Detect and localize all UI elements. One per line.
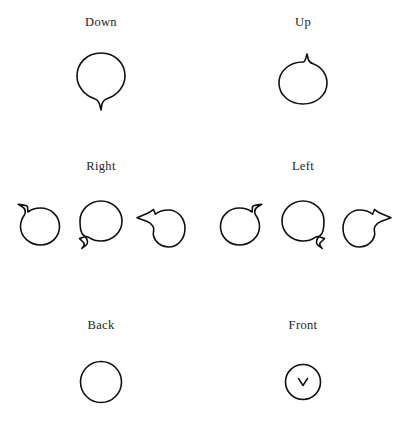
- shape-cell: [334, 188, 396, 258]
- balloon-tail-lower-left-icon: [73, 193, 129, 253]
- shape-cell: [132, 188, 194, 258]
- balloon-tail-upper-right-icon: [213, 193, 269, 253]
- group-label-right: Right: [0, 158, 202, 174]
- shape-cell: [8, 188, 70, 258]
- shape-list-front: [202, 347, 404, 417]
- shape-cell: [272, 188, 334, 258]
- figure-row-back-front: Back Front: [0, 317, 404, 437]
- figure-row-right-left: Right: [0, 158, 404, 288]
- shape-cell: [70, 347, 132, 417]
- shape-group-right: Right: [0, 158, 202, 258]
- balloon-tail-down-icon: [70, 49, 132, 115]
- shape-list-right: [0, 188, 202, 258]
- shape-group-left: Left: [202, 158, 404, 258]
- shape-cell: [70, 188, 132, 258]
- group-label-back: Back: [0, 317, 202, 333]
- shape-group-down: Down: [0, 14, 202, 120]
- shape-cell: [266, 44, 340, 120]
- shape-list-down: [0, 44, 202, 120]
- shape-group-front: Front: [202, 317, 404, 417]
- shape-cell: [64, 44, 138, 120]
- balloon-tail-lower-right-icon: [275, 193, 331, 253]
- shape-group-up: Up: [202, 14, 404, 120]
- balloon-tail-upper-left-icon: [11, 193, 67, 253]
- balloon-tail-left-icon: [133, 193, 193, 253]
- circle-with-chevron-icon: [278, 357, 328, 407]
- plain-circle-icon: [76, 357, 126, 407]
- shape-list-up: [202, 44, 404, 120]
- group-label-down: Down: [0, 14, 202, 30]
- figure-row-down-up: Down Up: [0, 14, 404, 144]
- shape-list-back: [0, 347, 202, 417]
- group-label-up: Up: [202, 14, 404, 30]
- shape-list-left: [202, 188, 404, 258]
- group-label-front: Front: [202, 317, 404, 333]
- shape-cell: [272, 347, 334, 417]
- chevron-down-icon: [299, 379, 308, 386]
- direction-shape-figure: Down Up Right: [0, 0, 404, 444]
- group-label-left: Left: [202, 158, 404, 174]
- shape-group-back: Back: [0, 317, 202, 417]
- balloon-tail-right-icon: [335, 193, 395, 253]
- shape-cell: [210, 188, 272, 258]
- balloon-tail-up-icon: [272, 49, 334, 115]
